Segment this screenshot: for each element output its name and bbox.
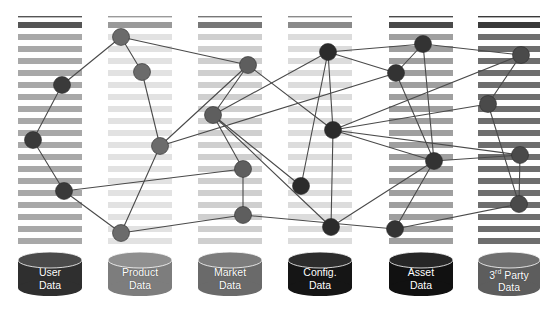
record-stripe xyxy=(18,238,82,244)
record-stripe xyxy=(108,82,172,88)
datastore-config-data[interactable] xyxy=(288,252,352,296)
cylinder-top xyxy=(18,252,82,268)
record-stripe xyxy=(389,58,453,64)
cylinder-top xyxy=(389,252,453,268)
record-node[interactable] xyxy=(113,29,130,46)
record-stripe xyxy=(108,94,172,100)
record-node[interactable] xyxy=(415,36,432,53)
record-stripe xyxy=(18,58,82,64)
record-stripe xyxy=(478,82,540,88)
datastore-market-data[interactable] xyxy=(198,252,262,296)
record-stripe xyxy=(198,154,262,160)
record-stripe xyxy=(288,238,352,244)
column-top-rule xyxy=(389,16,453,17)
record-stripe xyxy=(108,154,172,160)
record-stripe xyxy=(108,214,172,220)
cylinder-top xyxy=(198,252,262,268)
record-node[interactable] xyxy=(152,138,169,155)
record-stripe xyxy=(288,154,352,160)
record-stripe xyxy=(198,46,262,52)
record-stripe xyxy=(108,166,172,172)
record-stripe xyxy=(18,46,82,52)
record-node[interactable] xyxy=(25,132,42,149)
record-stripe xyxy=(198,190,262,196)
record-stripe xyxy=(198,34,262,40)
record-stripe xyxy=(108,46,172,52)
record-node[interactable] xyxy=(320,44,337,61)
record-stripe xyxy=(108,58,172,64)
record-node[interactable] xyxy=(323,219,340,236)
record-stripe xyxy=(18,178,82,184)
record-stripe xyxy=(198,178,262,184)
record-stripe xyxy=(478,34,540,40)
record-stripe xyxy=(288,202,352,208)
record-node[interactable] xyxy=(56,183,73,200)
record-stripe xyxy=(288,82,352,88)
record-node[interactable] xyxy=(511,196,528,213)
cylinder-bottom xyxy=(198,280,262,296)
column-top-rule xyxy=(288,16,352,17)
record-stripe xyxy=(198,94,262,100)
cylinder-bottom xyxy=(389,280,453,296)
column-top-rule xyxy=(108,16,172,17)
record-stripe xyxy=(18,154,82,160)
datastore-asset-data[interactable] xyxy=(389,252,453,296)
record-node[interactable] xyxy=(113,225,130,242)
record-stripe xyxy=(288,22,352,28)
record-stripe xyxy=(18,214,82,220)
record-stripe xyxy=(18,226,82,232)
record-stripe xyxy=(389,22,453,28)
record-stripe xyxy=(478,130,540,136)
cylinder-layer xyxy=(18,252,540,296)
datastore-third-party-data[interactable] xyxy=(478,252,540,296)
record-stripe xyxy=(288,106,352,112)
record-stripe xyxy=(389,202,453,208)
record-stripe xyxy=(478,238,540,244)
record-stripe xyxy=(389,190,453,196)
record-stripe xyxy=(18,22,82,28)
datastore-user-data[interactable] xyxy=(18,252,82,296)
record-stripes-market-data xyxy=(198,16,262,244)
record-node[interactable] xyxy=(512,147,529,164)
record-stripe xyxy=(288,226,352,232)
link-edge xyxy=(160,73,396,146)
record-node[interactable] xyxy=(235,207,252,224)
record-node[interactable] xyxy=(235,161,252,178)
record-node[interactable] xyxy=(205,107,222,124)
record-stripe xyxy=(108,130,172,136)
record-node[interactable] xyxy=(513,47,530,64)
record-stripe xyxy=(478,142,540,148)
record-node[interactable] xyxy=(426,153,443,170)
record-stripe xyxy=(288,166,352,172)
stripe-layer xyxy=(18,16,540,244)
datastore-product-data[interactable] xyxy=(108,252,172,296)
record-stripe xyxy=(478,202,540,208)
record-stripe xyxy=(478,226,540,232)
cylinder-bottom xyxy=(18,280,82,296)
diagram-canvas: UserDataProductDataMarketDataConfig.Data… xyxy=(0,0,552,315)
record-stripe xyxy=(478,190,540,196)
cylinder-bottom xyxy=(478,280,540,296)
record-node[interactable] xyxy=(134,64,151,81)
column-top-rule xyxy=(478,16,540,17)
record-stripe xyxy=(288,142,352,148)
record-node[interactable] xyxy=(480,96,497,113)
record-node[interactable] xyxy=(54,77,71,94)
record-stripe xyxy=(18,118,82,124)
record-node[interactable] xyxy=(387,221,404,238)
record-stripe xyxy=(18,34,82,40)
record-node[interactable] xyxy=(388,65,405,82)
record-stripe xyxy=(288,34,352,40)
record-stripes-user-data xyxy=(18,16,82,244)
record-stripe xyxy=(389,238,453,244)
record-stripe xyxy=(288,58,352,64)
record-stripes-third-party-data xyxy=(478,16,540,244)
cylinder-top xyxy=(478,252,540,268)
record-node[interactable] xyxy=(293,178,310,195)
record-stripe xyxy=(198,226,262,232)
record-node[interactable] xyxy=(240,57,257,74)
record-node[interactable] xyxy=(325,122,342,139)
cylinder-top xyxy=(108,252,172,268)
record-stripe xyxy=(18,70,82,76)
record-stripe xyxy=(389,82,453,88)
